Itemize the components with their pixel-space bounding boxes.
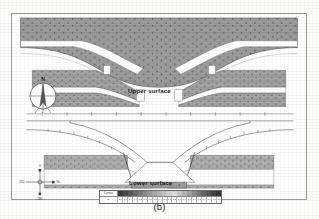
figure-page: N 0 90 180 270 Upper surface Lower surfa… [0,0,319,219]
north-arrow-icon: N [24,72,62,116]
upper-notch-center-right [175,89,183,101]
upper-surface-label: Upper surface [128,87,171,94]
orientation-top-label: 0 [39,164,41,168]
lower-surface-plot [26,112,293,188]
upper-surface-plot [20,18,297,109]
upper-notch-left [104,65,111,74]
orientation-cross-icon: 0 90 180 270 [18,162,62,202]
lower-surface-label: Lower surface [129,179,172,186]
compass-north-label: N [41,76,45,82]
upper-notch-right [208,65,215,74]
figure-frame: N 0 90 180 270 [11,13,307,200]
orientation-right-label: 90 [56,180,60,184]
figure-caption: (b) [0,201,319,212]
lower-contour-hachures [48,129,270,150]
orientation-left-label: 270 [19,180,25,184]
